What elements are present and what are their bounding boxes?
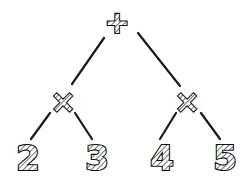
operand-node-2: 2	[16, 138, 40, 176]
multiply-operator-node: ×	[50, 84, 75, 119]
multiply-operator-node: ×	[174, 84, 199, 119]
plus-operator-node: +	[104, 5, 129, 40]
edge-root-to-mul_left	[72, 38, 104, 84]
edge-mul_left-to-leaf_3	[75, 113, 92, 139]
edge-mul_left-to-leaf_2	[31, 113, 50, 139]
operand-node-4: 4	[150, 138, 174, 176]
operand-node-5: 5	[213, 138, 237, 176]
tree-nodes: +××2345	[16, 5, 237, 177]
edge-mul_right-to-leaf_5	[201, 113, 220, 139]
operand-node-3: 3	[85, 138, 109, 176]
expression-tree-diagram: +××2345	[0, 0, 248, 176]
edge-root-to-mul_right	[138, 33, 180, 86]
